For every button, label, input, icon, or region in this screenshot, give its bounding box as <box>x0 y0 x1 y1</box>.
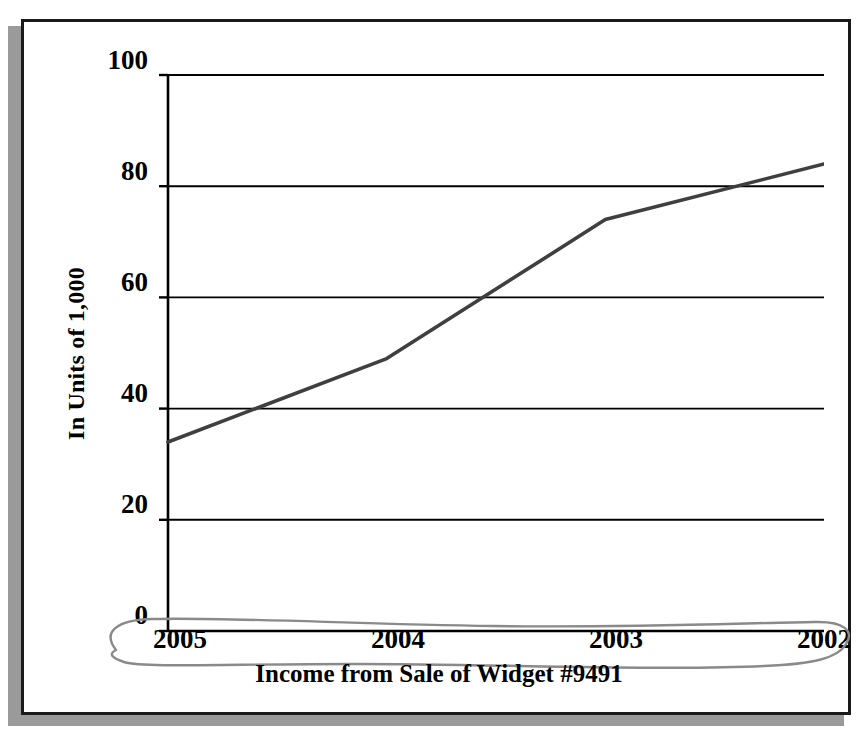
chart-figure: In Units of 1,000 100 80 60 40 20 0 <box>24 22 854 718</box>
x-tick-label-2003: 2003 <box>589 624 643 655</box>
y-axis-tick-labels: 100 80 60 40 20 0 <box>62 22 148 718</box>
x-axis-title: Income from Sale of Widget #9491 <box>24 660 854 688</box>
x-tick-label-2005: 2005 <box>153 624 207 655</box>
plot-svg <box>148 61 824 637</box>
y-tick-label-80: 80 <box>76 158 148 185</box>
y-tick-label-20: 20 <box>76 491 148 518</box>
y-tick-label-100: 100 <box>76 47 148 74</box>
x-tick-label-2002: 2002 <box>797 624 851 655</box>
x-axis-tick-labels: 2005 2004 2003 2002 <box>148 624 804 664</box>
y-axis-tick-marks <box>159 75 168 631</box>
gridlines <box>168 75 824 520</box>
x-tick-label-2004: 2004 <box>371 624 425 655</box>
chart-frame: In Units of 1,000 100 80 60 40 20 0 <box>21 19 851 715</box>
y-tick-label-60: 60 <box>76 269 148 296</box>
chart-page: In Units of 1,000 100 80 60 40 20 0 <box>0 0 862 737</box>
y-tick-label-0: 0 <box>76 602 148 629</box>
data-series-line <box>168 164 824 442</box>
y-tick-label-40: 40 <box>76 380 148 407</box>
plot-area <box>148 61 804 617</box>
